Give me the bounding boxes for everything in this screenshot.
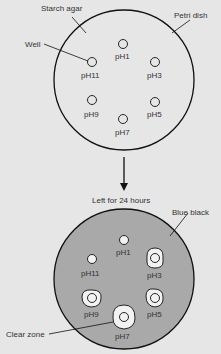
bottom-petri-dish: Blue black Clear zone pH1 pH3 pH5 pH7 pH… (6, 208, 210, 349)
label-ph9: pH9 (84, 110, 99, 119)
well-ph3-stained (151, 254, 160, 263)
label-ph1-stained: pH1 (116, 248, 131, 257)
label-ph5: pH5 (147, 110, 162, 119)
well-ph9-stained (88, 294, 97, 303)
label-petri-dish: Petri dish (174, 11, 207, 20)
label-ph7-stained: pH7 (115, 332, 130, 341)
label-left-24-hours: Left for 24 hours (92, 196, 150, 205)
label-ph9-stained: pH9 (84, 310, 99, 319)
label-starch-agar: Starch agar (41, 4, 83, 13)
well-ph1-stained (120, 236, 129, 245)
well-ph11-stained (88, 255, 97, 264)
label-blue-black: Blue black (172, 208, 210, 217)
label-ph1: pH1 (115, 52, 130, 61)
label-ph11-stained: pH11 (81, 269, 100, 278)
diagram-canvas: Starch agar Petri dish Well pH1 pH3 pH5 … (0, 0, 221, 354)
label-clear-zone: Clear zone (6, 330, 45, 339)
label-ph5-stained: pH5 (147, 310, 162, 319)
label-ph3: pH3 (147, 71, 162, 80)
label-ph7: pH7 (115, 128, 130, 137)
petri-dish-leader (172, 20, 190, 33)
arrow-head-icon (120, 183, 128, 191)
well-ph7-stained (120, 313, 129, 322)
label-ph3-stained: pH3 (147, 271, 162, 280)
well-ph5-stained (151, 294, 160, 303)
transition-arrow: Left for 24 hours (92, 157, 150, 205)
label-well: Well (25, 40, 41, 49)
label-ph11: pH11 (81, 71, 100, 80)
top-petri-dish: Starch agar Petri dish Well pH1 pH3 pH5 … (25, 4, 207, 150)
